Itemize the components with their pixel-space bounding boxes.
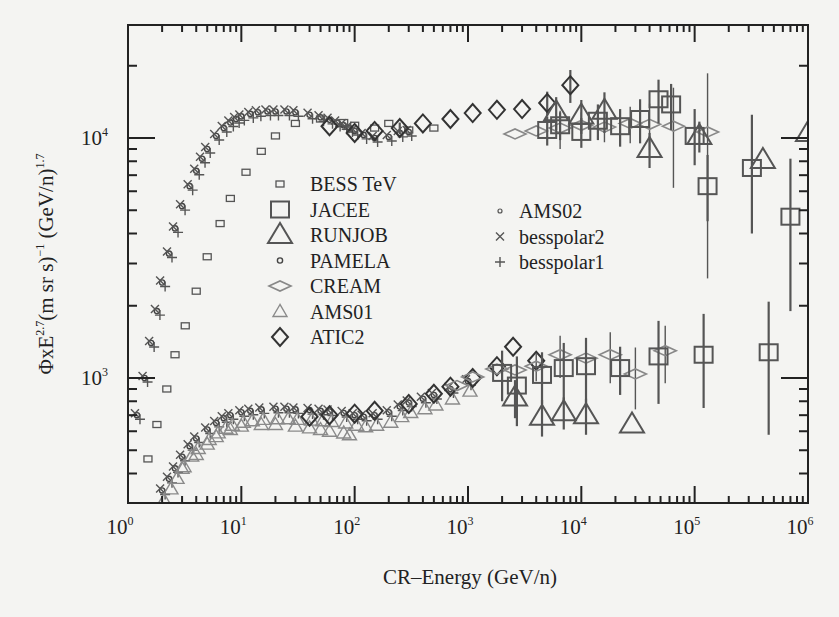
legend-item: CREAM [269, 275, 381, 297]
legend-label: AMS02 [519, 200, 582, 222]
legend-label: ATIC2 [310, 326, 364, 348]
x-axis-tick-labels: 100101102103104105106 [107, 514, 814, 539]
legend-item: besspolar2 [496, 226, 605, 249]
x-tick-label: 103 [446, 514, 473, 539]
legend-item: AMS02 [498, 200, 582, 222]
y-axis-title: ΦxE2.7(m sr s)−1 (GeV/n)1.7 [33, 154, 58, 375]
axis-ticks [128, 25, 808, 503]
legend-label: RUNJOB [310, 224, 388, 246]
legend-item: besspolar1 [495, 251, 605, 274]
y-tick-label: 103 [81, 365, 108, 390]
legend-label: JACEE [310, 199, 370, 221]
data-series [156, 375, 477, 505]
legend: BESS TeVJACEERUNJOBPAMELACREAMAMS01ATIC2… [268, 173, 605, 348]
legend-item: AMS01 [273, 301, 373, 323]
data-series [504, 73, 719, 278]
svg-text:ΦxE2.7(m sr s)−1 (GeV/n)1.7: ΦxE2.7(m sr s)−1 (GeV/n)1.7 [33, 154, 58, 375]
data-series [538, 80, 799, 311]
x-tick-label: 101 [220, 514, 247, 539]
legend-label: besspolar2 [519, 226, 605, 249]
legend-label: besspolar1 [519, 251, 605, 274]
data-series [322, 70, 579, 142]
y-tick-label: 104 [81, 125, 108, 150]
x-axis-title: CR–Energy (GeV/n) [383, 565, 557, 589]
data-series [544, 92, 820, 168]
data-series [446, 326, 676, 410]
legend-item: BESS TeV [276, 173, 397, 195]
x-tick-label: 105 [673, 514, 700, 539]
y-axis-tick-labels: 103104 [81, 125, 108, 390]
data-series [175, 418, 356, 474]
cosmic-ray-flux-chart: 100101102103104105106 103104 CR–Energy (… [0, 0, 839, 617]
plot-frame [128, 25, 808, 503]
legend-label: PAMELA [310, 250, 391, 272]
data-points-layer [131, 70, 820, 505]
legend-item: PAMELA [277, 250, 391, 272]
x-tick-label: 102 [333, 514, 360, 539]
x-tick-label: 104 [560, 514, 587, 539]
legend-item: RUNJOB [268, 223, 388, 246]
x-tick-label: 106 [786, 514, 813, 539]
legend-item: ATIC2 [272, 326, 364, 348]
legend-label: BESS TeV [310, 173, 397, 195]
legend-label: AMS01 [310, 301, 373, 323]
x-tick-label: 100 [107, 514, 134, 539]
legend-label: CREAM [310, 275, 381, 297]
data-series [503, 380, 644, 436]
legend-item: JACEE [271, 199, 370, 221]
